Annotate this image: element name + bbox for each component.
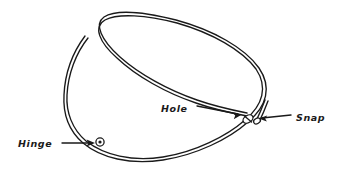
hole-arrow — [197, 106, 242, 119]
hinge-arrow — [62, 140, 95, 147]
hinge-label: Hinge — [18, 138, 52, 149]
hole-label: Hole — [161, 103, 188, 114]
ring-inner-line — [67, 16, 263, 159]
ring-wire-group — [64, 12, 268, 161]
ring-outer-line — [64, 12, 266, 161]
snap-label: Snap — [296, 112, 325, 123]
snap-arrow — [259, 115, 292, 122]
ring-fastener-drawing: Hinge Hole Snap — [0, 0, 338, 179]
diagram-canvas: Hinge Hole Snap — [0, 0, 338, 179]
hinge-pivot-icon — [96, 138, 104, 146]
